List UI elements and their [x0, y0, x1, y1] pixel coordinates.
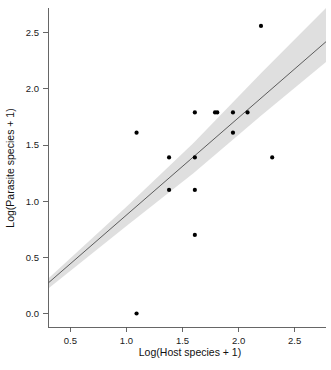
- y-axis-ticks: 0.00.51.01.52.02.5: [26, 27, 48, 319]
- data-point: [270, 155, 274, 159]
- data-point: [134, 311, 138, 315]
- x-tick-label: 1.0: [120, 335, 133, 346]
- y-axis-title: Log(Parasite species + 1): [4, 108, 16, 227]
- data-point: [245, 110, 249, 114]
- x-axis-title: Log(Host species + 1): [139, 346, 241, 358]
- y-tick-label: 0.5: [26, 252, 39, 263]
- data-point: [167, 188, 171, 192]
- x-tick-label: 2.0: [232, 335, 245, 346]
- x-tick-label: 0.5: [64, 335, 77, 346]
- y-tick-label: 1.5: [26, 139, 39, 150]
- regression-line-segment: [48, 42, 326, 283]
- data-point: [193, 188, 197, 192]
- data-point: [167, 155, 171, 159]
- data-point: [193, 233, 197, 237]
- chart-figure: 0.51.01.52.02.5 0.00.51.01.52.02.5 Log(H…: [0, 0, 331, 370]
- y-tick-label: 2.0: [26, 83, 39, 94]
- regression-line: [48, 42, 326, 283]
- data-point: [193, 155, 197, 159]
- data-points: [134, 24, 274, 316]
- x-tick-label: 1.5: [176, 335, 189, 346]
- y-tick-label: 2.5: [26, 27, 39, 38]
- data-point: [231, 110, 235, 114]
- x-tick-label: 2.5: [288, 335, 301, 346]
- data-point: [259, 24, 263, 28]
- scatter-plot-svg: 0.51.01.52.02.5 0.00.51.01.52.02.5 Log(H…: [0, 0, 331, 370]
- y-tick-label: 1.0: [26, 196, 39, 207]
- data-point: [231, 131, 235, 135]
- data-point: [193, 110, 197, 114]
- data-point: [134, 131, 138, 135]
- x-axis-ticks: 0.51.01.52.02.5: [64, 327, 301, 346]
- data-point: [215, 110, 219, 114]
- y-tick-label: 0.0: [26, 308, 39, 319]
